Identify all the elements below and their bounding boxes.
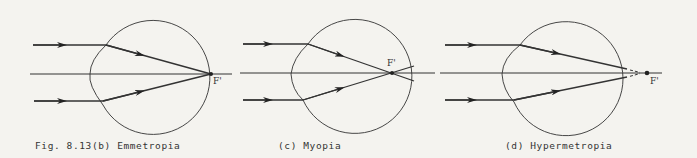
- eyeball-outline: [90, 20, 210, 134]
- caption-emmetropia: Fig. 8.13(b) Emmetropia: [35, 140, 180, 151]
- eyeball-outline: [502, 22, 623, 136]
- caption-hypermetropia: (d) Hypermetropia: [505, 140, 612, 151]
- caption-myopia: (c) Myopia: [278, 140, 341, 151]
- focal-label-hypermetropia: F': [650, 76, 659, 86]
- panel-emmetropia: [30, 20, 232, 134]
- panel-hypermetropia: [440, 22, 662, 136]
- focal-label-emmetropia: F': [213, 76, 222, 86]
- focal-point: [645, 71, 650, 76]
- eyeball-outline: [291, 19, 412, 133]
- panel-myopia: [240, 19, 435, 133]
- focal-label-myopia: F': [387, 58, 396, 68]
- extended-ray-dashed-bottom: [630, 74, 640, 77]
- extended-ray-dashed-top: [630, 70, 640, 72]
- eye-refraction-diagram: [0, 0, 697, 158]
- focal-point: [390, 71, 394, 75]
